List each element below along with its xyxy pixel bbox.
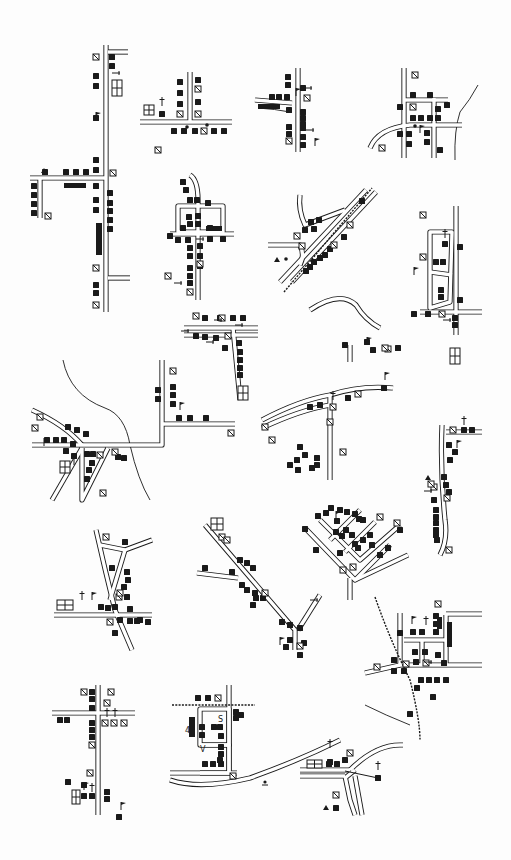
building-icon [317, 255, 323, 261]
public-building-icon [93, 265, 99, 271]
dot-marker-icon [413, 124, 417, 128]
building-icon [385, 545, 391, 551]
building-icon [367, 532, 373, 538]
triangle-marker-icon [274, 257, 280, 262]
building-icon [276, 94, 282, 100]
building-icon [279, 619, 285, 625]
long-building-icon [206, 226, 222, 231]
public-building-icon [165, 273, 171, 279]
building-icon [461, 427, 467, 433]
building-icon [418, 677, 424, 683]
building-icon [105, 605, 111, 611]
building-icon [93, 157, 99, 163]
building-icon [433, 520, 439, 526]
building-icon [177, 90, 183, 96]
building-icon [195, 213, 201, 219]
public-building-icon [230, 773, 236, 779]
public-building-icon [262, 424, 268, 430]
public-building-icon [225, 333, 231, 339]
building-icon [410, 92, 416, 98]
triangle-marker-icon [323, 805, 329, 810]
public-building-icon [100, 490, 106, 496]
building-icon [93, 207, 99, 213]
plan-diamond-grid-village [302, 505, 408, 600]
building-icon [220, 236, 226, 242]
building-icon [422, 649, 428, 655]
building-icon [93, 290, 99, 296]
public-building-icon [117, 590, 123, 596]
building-icon [327, 759, 333, 765]
building-icon [109, 54, 115, 60]
building-icon [122, 539, 128, 545]
cross-h-marker-icon [174, 281, 182, 285]
field-grid-icon [112, 80, 122, 96]
building-icon [89, 689, 95, 695]
building-icon [359, 198, 365, 204]
building-icon [213, 335, 219, 341]
plan-square-block-village [165, 175, 234, 300]
public-building-icon [423, 660, 429, 666]
building-icon [434, 537, 440, 543]
field-grid-icon [60, 461, 70, 473]
building-icon [83, 169, 89, 175]
building-icon [294, 457, 300, 463]
plan-t-junction-village [140, 72, 232, 153]
lamp-marker-icon [262, 780, 268, 785]
building-icon [61, 437, 67, 443]
building-icon [145, 619, 151, 625]
building-icon [107, 226, 113, 232]
building-icon [195, 221, 201, 227]
building-icon [93, 183, 99, 189]
building-icon [250, 602, 256, 608]
building-icon [285, 82, 291, 88]
building-icon [237, 365, 243, 371]
road-outline [205, 525, 295, 650]
public-building-icon [215, 695, 221, 701]
public-building-icon [331, 242, 337, 248]
building-icon [89, 705, 95, 711]
public-building-icon [294, 233, 300, 239]
building-icon [313, 547, 319, 553]
building-icon [183, 187, 189, 193]
building-icon [221, 128, 227, 134]
plan-fork-road-village [262, 372, 393, 480]
building-icon [286, 124, 292, 130]
building-icon [286, 131, 292, 137]
plan-triangular-junction-village [54, 530, 152, 650]
cross-marker-icon [80, 591, 85, 600]
building-icon [93, 282, 99, 288]
building-icon [315, 513, 321, 519]
building-icon [192, 128, 198, 134]
building-icon [424, 130, 430, 136]
building-icon [202, 761, 208, 767]
building-icon [167, 233, 173, 239]
building-icon [73, 169, 79, 175]
building-icon [197, 243, 203, 249]
public-building-icon [112, 449, 118, 455]
building-icon [410, 115, 416, 121]
building-icon [171, 128, 177, 134]
building-icon [202, 315, 208, 321]
building-icon [31, 192, 37, 198]
long-building-icon [64, 183, 86, 188]
building-icon [203, 415, 209, 421]
public-building-icon [350, 564, 356, 570]
building-icon [93, 167, 99, 173]
public-building-icon [262, 590, 268, 596]
building-icon [187, 280, 193, 286]
building-icon [177, 79, 183, 85]
plan-loop-road-village [411, 206, 482, 364]
building-icon [217, 757, 223, 763]
building-icon [121, 455, 127, 461]
plan-river-junction-village [32, 360, 235, 500]
public-building-icon [379, 145, 385, 151]
river-line [365, 705, 410, 725]
building-icon [414, 685, 420, 691]
building-icon [343, 527, 349, 533]
building-icon [431, 497, 437, 503]
building-icon [197, 253, 203, 259]
building-icon [457, 244, 463, 250]
building-icon [116, 814, 122, 820]
building-icon [308, 219, 314, 225]
building-icon [297, 625, 303, 631]
